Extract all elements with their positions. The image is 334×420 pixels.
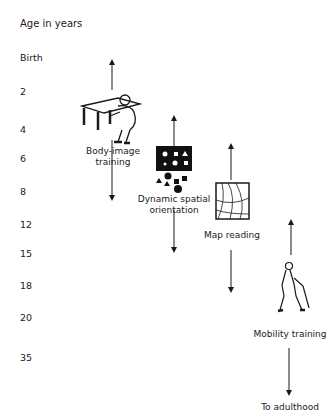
label-line: Dynamic spatial (136, 194, 212, 205)
label-line: orientation (136, 205, 212, 216)
label-line: Body-image (80, 146, 146, 157)
stage-label-body-image: Body-image training (80, 146, 146, 168)
stage-label-mobility: Mobility training (250, 329, 330, 340)
footer-label: To adulthood (254, 402, 326, 413)
stage-label-map: Map reading (200, 230, 264, 241)
person-with-cane-icon (278, 263, 309, 312)
map-icon (216, 183, 249, 219)
label-line: training (80, 157, 146, 168)
shapes-board-icon (156, 146, 192, 193)
person-at-table-icon (82, 95, 140, 143)
stage-label-spatial: Dynamic spatial orientation (136, 194, 212, 216)
